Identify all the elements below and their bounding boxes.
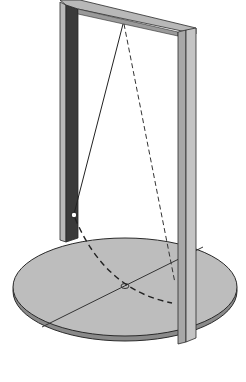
frame-right-post <box>178 28 196 344</box>
pendulum-diagram <box>0 0 246 382</box>
circular-base <box>13 238 237 341</box>
frame-top-beam <box>60 0 196 36</box>
pendulum-string-current <box>74 24 123 214</box>
diagram-canvas <box>0 0 246 382</box>
frame-left-post <box>60 2 78 242</box>
pendulum-bob <box>71 212 77 218</box>
